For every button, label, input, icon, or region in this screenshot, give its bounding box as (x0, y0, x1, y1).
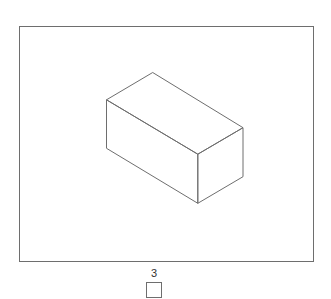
cuboid-figure (0, 0, 331, 299)
cuboid-right-face (198, 128, 243, 204)
answer-box[interactable] (146, 282, 162, 298)
diagram-canvas: 3 (0, 0, 331, 299)
question-number: 3 (146, 267, 162, 279)
cuboid-top-face (107, 73, 244, 155)
cuboid-left-face (107, 100, 198, 204)
